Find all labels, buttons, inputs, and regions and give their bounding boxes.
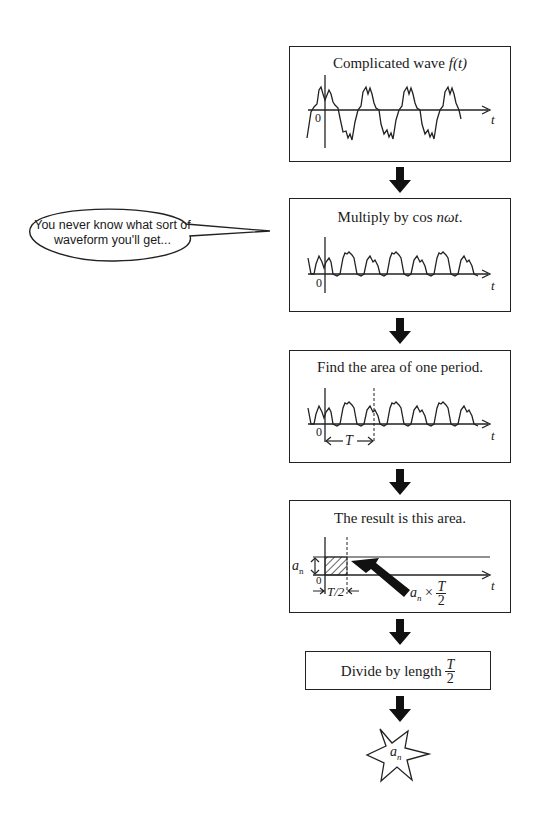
- result-star: [0, 0, 537, 819]
- result-subscript: n: [397, 752, 402, 762]
- result-symbol: a: [390, 744, 397, 759]
- result-label: an: [390, 744, 402, 762]
